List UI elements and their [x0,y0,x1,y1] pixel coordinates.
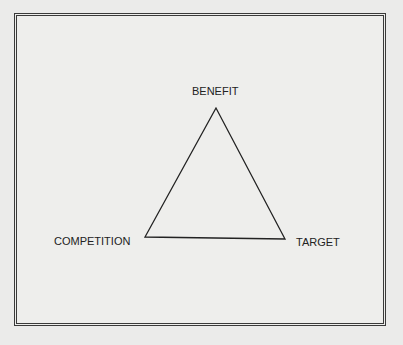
node-label-benefit: BENEFIT [192,85,238,97]
node-label-target: TARGET [296,236,340,248]
triangle-diagram [0,0,403,345]
triangle-shape [145,108,285,239]
node-label-competition: COMPETITION [54,235,130,247]
